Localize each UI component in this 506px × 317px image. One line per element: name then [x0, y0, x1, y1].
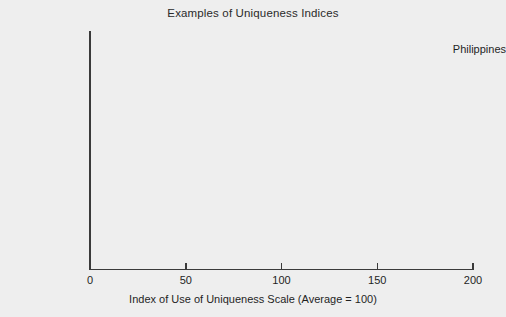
x-tick-label: 150 [368, 274, 386, 286]
x-tick-label: 0 [87, 274, 93, 286]
x-tick-mark [377, 263, 379, 269]
x-axis-title: Index of Use of Uniqueness Scale (Averag… [0, 293, 506, 305]
x-tick-mark [89, 263, 91, 269]
x-tick-mark [472, 263, 474, 269]
x-tick-label: 200 [464, 274, 482, 286]
bar-chart: Examples of Uniqueness Indices 050100150… [0, 0, 506, 317]
x-tick-mark [281, 263, 283, 269]
chart-title: Examples of Uniqueness Indices [0, 7, 506, 19]
x-tick-mark [185, 263, 187, 269]
category-label-philippines: Philippines [422, 43, 506, 55]
x-tick-label: 100 [272, 274, 290, 286]
x-tick-label: 50 [180, 274, 192, 286]
y-axis-line [89, 31, 91, 270]
